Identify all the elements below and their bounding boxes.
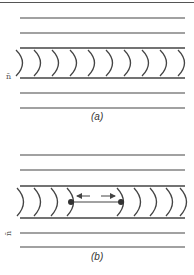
panel-a-wavefront-arc (34, 50, 41, 76)
panel-b-wavefront-arc (34, 188, 41, 216)
panel-b-wavefront-arc (134, 188, 141, 216)
panel-b-wavefront-arc (180, 188, 187, 216)
panel-b-caption: (b) (91, 251, 103, 262)
panel-b-node-dot (118, 199, 124, 205)
panel-a-wavefront-arc (52, 50, 59, 76)
panel-b-wavefront-arc (17, 188, 24, 216)
panel-b-wavefront-arc (150, 188, 157, 216)
wave-channel-diagram (0, 0, 194, 275)
panel-b-wavefront-arc (166, 188, 173, 216)
panel-a-wavefront-arc (178, 50, 185, 76)
panel-a-wavefront-arc (160, 50, 167, 76)
panel-a-n-label: n̄ (6, 72, 11, 81)
panel-a-wavefront-arc (88, 50, 95, 76)
panel-b-n-label: n̄ (4, 231, 13, 236)
panel-a-wavefront-arc (106, 50, 113, 76)
panel-a-wavefront-arc (142, 50, 149, 76)
panel-b-wavefront-arc (51, 188, 58, 216)
panel-b-node-dot (68, 199, 74, 205)
panel-a-wavefront-arc (16, 50, 23, 76)
panel-a-wavefront-arc (70, 50, 77, 76)
panel-a-wavefront-arc (124, 50, 131, 76)
panel-a-caption: (a) (91, 111, 103, 122)
